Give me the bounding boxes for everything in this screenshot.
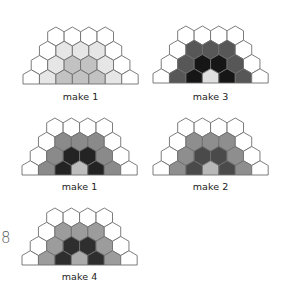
figure-make-4 (22, 208, 140, 268)
figure-label: make 3 (151, 91, 271, 102)
figure-label: make 1 (20, 181, 140, 192)
figure-make-2 (153, 118, 271, 178)
figure-make-1-light (23, 27, 141, 87)
hex-grid (22, 208, 140, 268)
figure-label: make 2 (151, 181, 271, 192)
hex-grid (153, 26, 271, 86)
hex-grid (22, 118, 140, 178)
hex-grid (23, 27, 141, 87)
figure-make-1-dark (22, 118, 140, 178)
hex-grid (153, 118, 271, 178)
figure-label: make 4 (20, 271, 140, 282)
figure-make-3 (153, 26, 271, 86)
figure-label: make 1 (21, 91, 141, 102)
page-number: 8 (1, 229, 11, 247)
